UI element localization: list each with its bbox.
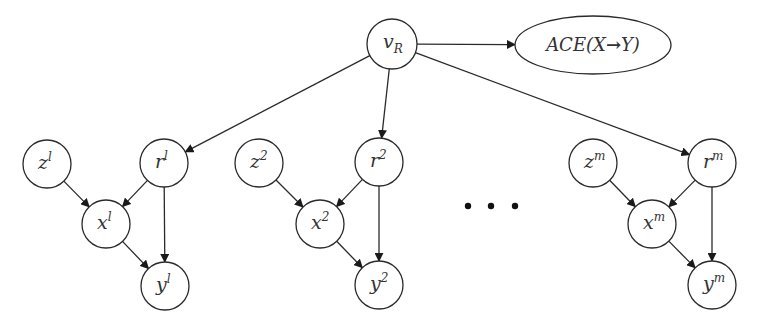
edge-z-l-to-x-l (64, 181, 89, 207)
ace-label: ACE(X→Y) (544, 34, 640, 55)
node-r-l: rl (140, 139, 188, 187)
node-r-2: r2 (355, 138, 403, 186)
group-m: zmrmxmym (569, 139, 736, 309)
edge-r-l-to-y-l (164, 187, 165, 262)
group-2: z2r2x2y2 (235, 138, 403, 309)
node-z-2: z2 (235, 139, 283, 187)
ellipsis-dot (512, 203, 518, 209)
edge-vR-to-r-2 (382, 69, 390, 138)
edge-x-m-to-y-m (669, 241, 695, 268)
node-y-l: yl (141, 262, 189, 310)
causal-diagram: vRACE(X→Y)zlrlxlylz2r2x2y2zmrmxmym (0, 0, 759, 322)
node-ace-x-to-y: ACE(X→Y) (515, 16, 671, 74)
edge-x-l-to-y-l (123, 241, 149, 268)
edge-z-2-to-x-2 (276, 180, 303, 207)
node-x-m: xm (628, 200, 676, 248)
node-z-l: zl (23, 140, 71, 188)
edge-vR-to-r-l (185, 56, 369, 152)
edge-r-l-to-x-l (123, 180, 148, 206)
node-v-R: vR (367, 19, 417, 69)
node-y-2: y2 (355, 261, 403, 309)
node-x-2: x2 (296, 200, 344, 248)
edge-r-m-to-x-m (669, 180, 695, 207)
edge-z-m-to-x-m (610, 180, 636, 206)
nodes: vRACE(X→Y)zlrlxlylz2r2x2y2zmrmxmym (23, 16, 736, 310)
ellipsis-dot (488, 203, 494, 209)
node-z-m: zm (569, 139, 617, 187)
edge-x-2-to-y-2 (337, 241, 363, 267)
node-r-m: rm (688, 139, 736, 187)
ellipsis-dots (465, 203, 518, 209)
node-y-m: ym (688, 261, 736, 309)
edge-vR-to-ace (417, 44, 515, 45)
node-x-l: xl (82, 200, 130, 248)
ellipsis-dot (465, 203, 471, 209)
edge-r-2-to-x-2 (337, 179, 363, 206)
